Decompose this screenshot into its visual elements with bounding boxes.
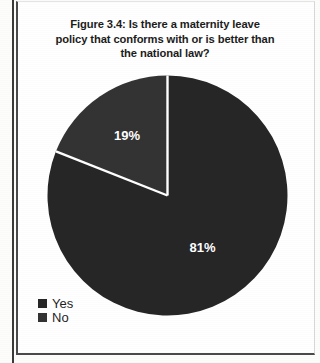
legend-label-no: No [52,311,69,324]
legend-item-no[interactable]: No [38,311,73,324]
chart-legend: Yes No [38,297,73,325]
page-spine-line [12,0,14,363]
legend-item-yes[interactable]: Yes [38,297,73,310]
figure-title: Figure 3.4: Is there a maternity leave p… [22,17,308,61]
square-swatch-icon [38,313,47,322]
pie-chart: 81% 19% [47,75,288,316]
figure-page: Figure 3.4: Is there a maternity leave p… [0,0,320,363]
figure-title-line-2: policy that conforms with or is better t… [22,32,308,47]
figure-title-line-1: Figure 3.4: Is there a maternity leave [22,17,308,32]
pie-label-no: 19% [114,128,140,143]
figure-title-line-3: the national law? [22,46,308,61]
pie-label-yes: 81% [190,240,216,255]
pie-chart-svg: 81% 19% [47,75,288,316]
legend-label-yes: Yes [52,297,73,310]
square-swatch-icon [38,299,47,308]
